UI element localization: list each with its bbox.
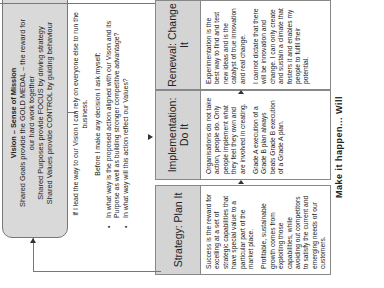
strategy-para: Profitable, sustainable growth comes fro… (260, 191, 327, 269)
arrow-down-icon (148, 134, 153, 140)
lead-text: If I lead the way to our Vision I can re… (72, 0, 89, 228)
arrow-right-icon (238, 90, 244, 94)
question-item: In what way is the proposed action align… (105, 0, 122, 218)
implementation-para: Organisations do not take action, people… (205, 96, 247, 174)
feedback-line-vertical (33, 271, 161, 272)
strategy-diagram: Vision – Sense of Mission Shared Goals p… (0, 0, 384, 288)
arrow-right-icon (30, 238, 36, 243)
question-item: In what way will this action reflect our… (122, 0, 131, 218)
strategy-column: Strategy: Plan It Success is the reward … (155, 185, 331, 275)
implementation-header: Implementation: Do It (156, 91, 201, 179)
vision-title: Vision – Sense of Mission (9, 0, 18, 233)
renewal-header: Renewal: Change It (156, 1, 201, 89)
strategy-header: Strategy: Plan It (156, 186, 201, 274)
caption: Make it happen... Will (334, 96, 344, 198)
renewal-para: I cannot dictate that there will be inno… (252, 6, 311, 84)
implementation-column: Implementation: Do It Organisations do n… (155, 90, 331, 180)
ask-text: Before I make any decision I ask myself: (94, 0, 103, 228)
feedback-line-right (0, 3, 155, 4)
arrow-right-icon (238, 180, 244, 184)
question-list: In what way is the proposed action align… (105, 0, 131, 228)
decision-text: If I lead the way to our Vision I can re… (72, 0, 131, 228)
vision-line: our hard work together (27, 0, 36, 233)
vision-line: Shared Purposes provide FOCUS by driving… (36, 0, 45, 233)
implementation-para: Grade A execution of a Grade B plan alwa… (252, 96, 286, 174)
renewal-para: Experimentation is the best way to find … (205, 6, 247, 84)
vision-line: Shared Goals provide the GOLD MEDAL – th… (18, 0, 27, 233)
vision-line: Shared Values provide CONTROL by guiding… (45, 0, 54, 233)
vision-box: Vision – Sense of Mission Shared Goals p… (2, 0, 68, 238)
strategy-para: Success is the reward for excelling at a… (205, 191, 255, 269)
feedback-line-horizontal (33, 238, 34, 272)
renewal-column: Renewal: Change It Experimentation is th… (155, 0, 331, 90)
